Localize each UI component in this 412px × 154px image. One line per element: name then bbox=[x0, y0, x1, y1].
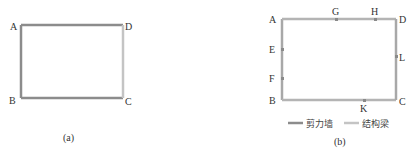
label-g: G bbox=[332, 6, 339, 17]
legend-label-shear-wall: 剪力墙 bbox=[306, 118, 333, 129]
caption-b: (b) bbox=[334, 136, 346, 148]
label-h: H bbox=[371, 6, 378, 17]
label-e: E bbox=[269, 44, 275, 55]
legend-label-structural-beam: 结构梁 bbox=[362, 118, 389, 129]
label-d: D bbox=[125, 21, 132, 32]
legend: 剪力墙 结构梁 bbox=[288, 118, 389, 129]
node-g bbox=[335, 18, 338, 21]
node-f bbox=[281, 77, 284, 80]
label-c: C bbox=[399, 96, 406, 107]
label-a: A bbox=[10, 21, 18, 32]
diagram-canvas: A D B C (a) A G H D E F L B K C 剪力墙 结构梁 bbox=[0, 0, 412, 154]
node-l bbox=[395, 55, 398, 58]
label-l: L bbox=[399, 52, 405, 63]
figure-a: A D B C (a) bbox=[9, 21, 132, 144]
label-b: B bbox=[269, 95, 276, 106]
caption-a: (a) bbox=[63, 132, 74, 144]
node-h bbox=[374, 18, 377, 21]
figure-b: A G H D E F L B K C 剪力墙 结构梁 (b) bbox=[269, 6, 406, 148]
label-d: D bbox=[399, 14, 406, 25]
node-k bbox=[363, 99, 366, 102]
label-f: F bbox=[269, 73, 275, 84]
label-k: K bbox=[360, 103, 368, 114]
label-a: A bbox=[269, 14, 277, 25]
label-c: C bbox=[125, 96, 132, 107]
label-b: B bbox=[9, 95, 16, 106]
node-e bbox=[281, 48, 284, 51]
